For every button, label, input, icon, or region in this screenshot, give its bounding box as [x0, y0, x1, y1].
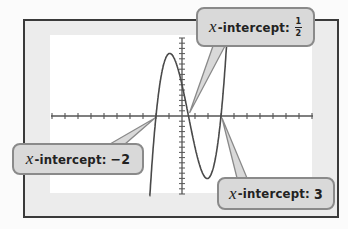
callout-x-intercept-neg2: x -intercept: −2	[12, 143, 144, 175]
fraction-one-half: 1 2	[295, 17, 302, 38]
variable-x: x	[209, 17, 217, 37]
callout-x-intercept-half: x -intercept: 1 2	[196, 7, 315, 47]
variable-x: x	[229, 184, 237, 204]
callout-value: 3	[314, 186, 323, 202]
callout-label: -intercept:	[34, 152, 106, 167]
callout-x-intercept-3: x -intercept: 3	[217, 177, 335, 210]
numerator: 1	[296, 17, 302, 26]
callout-value: −2	[111, 151, 131, 167]
callout-label: -intercept:	[238, 186, 310, 201]
callout-label: -intercept:	[218, 20, 290, 35]
denominator: 2	[296, 29, 302, 38]
variable-x: x	[26, 149, 34, 169]
